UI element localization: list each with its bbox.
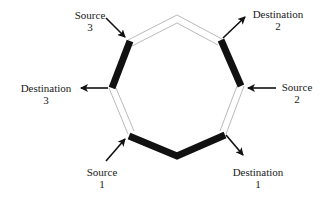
thick-path-segments xyxy=(112,40,241,156)
arrows xyxy=(81,17,276,161)
ring-segment-top-inner xyxy=(132,23,218,46)
label-destination-3: Destination 3 xyxy=(14,82,78,106)
ring-segment-left-inner xyxy=(116,88,134,131)
ring-segment-top-outer xyxy=(128,15,222,40)
path-source3-to-destination3 xyxy=(112,41,130,88)
arrow-source1-in-icon xyxy=(106,139,125,161)
label-source-3: Source 3 xyxy=(62,9,118,33)
label-source-2: Source 2 xyxy=(275,81,319,105)
arrow-destination2-out-icon xyxy=(223,17,245,38)
arrow-destination1-out-icon xyxy=(226,135,243,155)
label-destination-2: Destination 2 xyxy=(246,8,310,32)
path-destination2-to-source2 xyxy=(221,40,241,86)
thin-ring-segments xyxy=(109,15,244,134)
path-source1-to-destination1 xyxy=(129,135,225,156)
label-destination-1: Destination 1 xyxy=(226,166,290,190)
label-source-1: Source 1 xyxy=(80,166,124,190)
ring-segment-right-outer xyxy=(226,86,244,134)
ring-segment-right-inner xyxy=(220,86,237,131)
ring-network-diagram: Source 3 Destination 3 Destination 2 Sou… xyxy=(0,0,328,203)
